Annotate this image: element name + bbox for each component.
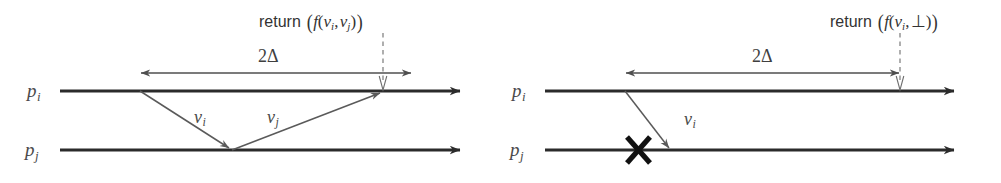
interval-label-right-number: 2 xyxy=(752,46,761,66)
return-bigparen-close-right: ) xyxy=(932,9,938,35)
process-label-pi-left-sub: i xyxy=(37,89,41,104)
process-label-pj-left-sub: j xyxy=(35,148,39,163)
message-label-vi-left-base: v xyxy=(194,107,202,127)
process-label-pi-right-base: p xyxy=(512,80,522,101)
process-label-pj-left-base: p xyxy=(25,139,35,160)
message-label-vi-right-sub: i xyxy=(693,117,696,131)
interval-label-right-symbol: Δ xyxy=(761,46,773,66)
process-label-pj-left: pj xyxy=(25,139,39,164)
message-label-vi-right: vi xyxy=(684,109,696,132)
return-keyword-left: return xyxy=(259,13,301,30)
interval-label-right: 2Δ xyxy=(752,46,773,67)
return-arg1-base-right: v xyxy=(895,12,903,31)
return-keyword-right: return xyxy=(830,13,872,30)
panel-right xyxy=(545,33,954,163)
message-label-vj-left: vj xyxy=(267,107,279,130)
message-arrow-vj-left xyxy=(232,93,380,150)
return-comma-right: , xyxy=(905,12,909,31)
process-label-pj-right-base: p xyxy=(510,139,520,160)
message-label-vi-right-base: v xyxy=(684,109,692,129)
process-label-pj-right: pj xyxy=(510,139,524,164)
message-label-vi-left: vi xyxy=(194,107,206,130)
return-expression-left: (f(vi, vj)) xyxy=(306,12,364,31)
message-label-vi-left-sub: i xyxy=(203,115,206,129)
return-bigparen-open-left: ( xyxy=(306,9,312,35)
interval-label-left-symbol: Δ xyxy=(267,46,279,66)
return-paren-close-right: ) xyxy=(926,12,932,31)
return-arg2-bottom-right: ⊥ xyxy=(911,12,926,31)
process-label-pi-right: pi xyxy=(512,80,526,105)
message-arrow-vi-left xyxy=(140,91,229,148)
return-bigparen-close-left: ) xyxy=(357,9,363,35)
process-label-pj-right-sub: j xyxy=(520,148,524,163)
process-label-pi-left: pi xyxy=(27,80,41,105)
interval-label-left-number: 2 xyxy=(258,46,267,66)
interval-label-left: 2Δ xyxy=(258,46,279,67)
return-expression-right: (f(vi, ⊥)) xyxy=(877,12,939,31)
return-paren-close-left: ) xyxy=(350,12,356,31)
return-comma-left: , xyxy=(334,12,338,31)
figure-canvas: pi pj 2Δ vi vj return(f(vi, vj)) pi pj 2… xyxy=(0,0,1001,183)
return-bigparen-open-right: ( xyxy=(877,9,883,35)
return-annotation-left: return(f(vi, vj)) xyxy=(259,9,363,35)
message-label-vj-left-sub: j xyxy=(276,115,279,129)
return-annotation-right: return(f(vi, ⊥)) xyxy=(830,9,939,35)
process-label-pi-right-sub: i xyxy=(522,89,526,104)
message-label-vj-left-base: v xyxy=(267,107,275,127)
process-label-pi-left-base: p xyxy=(27,80,37,101)
return-arg1-base-left: v xyxy=(324,12,332,31)
